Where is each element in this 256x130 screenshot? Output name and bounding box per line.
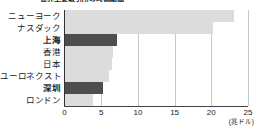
x-tick-label-15: 15 bbox=[165, 108, 185, 117]
bar-row bbox=[65, 82, 249, 94]
plot-area bbox=[65, 10, 249, 106]
category-label-1: ニューヨーク bbox=[0, 10, 61, 22]
bar-4 bbox=[65, 46, 113, 58]
category-label-2: ナスダック bbox=[0, 22, 61, 34]
x-tick-label-5: 5 bbox=[91, 108, 111, 117]
category-label-5: 日本 bbox=[0, 58, 61, 70]
bar-3 bbox=[65, 34, 118, 46]
bar-row bbox=[65, 22, 249, 34]
bar-6 bbox=[65, 70, 110, 82]
bar-1 bbox=[65, 10, 235, 22]
category-label-8: ロンドン bbox=[0, 94, 61, 106]
x-axis-unit-label: (兆ドル) bbox=[229, 118, 254, 126]
category-label-4: 香港 bbox=[0, 46, 61, 58]
bar-row bbox=[65, 10, 249, 22]
bar-5 bbox=[65, 58, 113, 70]
x-tick-label-25: 25 bbox=[238, 108, 256, 117]
bar-chart: 世界主要取引所の時価総額 ニューヨークナスダック上海香港日本ユーロネクスト深圳ロ… bbox=[0, 0, 256, 130]
chart-title: 世界主要取引所の時価総額 bbox=[40, 0, 160, 2]
bar-row bbox=[65, 34, 249, 46]
bar-row bbox=[65, 70, 249, 82]
bar-row bbox=[65, 94, 249, 106]
bar-2 bbox=[65, 22, 213, 34]
x-tick-label-0: 0 bbox=[55, 108, 75, 117]
gridline-25 bbox=[248, 10, 249, 106]
category-label-6: ユーロネクスト bbox=[0, 70, 61, 82]
x-tick-label-10: 10 bbox=[128, 108, 148, 117]
x-axis-line bbox=[64, 106, 248, 107]
bar-row bbox=[65, 58, 249, 70]
bar-7 bbox=[65, 82, 104, 94]
bar-row bbox=[65, 46, 249, 58]
category-label-7: 深圳 bbox=[0, 82, 61, 94]
category-label-3: 上海 bbox=[0, 34, 61, 46]
bar-8 bbox=[65, 94, 94, 106]
x-tick-label-20: 20 bbox=[201, 108, 221, 117]
category-axis-labels: ニューヨークナスダック上海香港日本ユーロネクスト深圳ロンドン bbox=[0, 10, 61, 106]
